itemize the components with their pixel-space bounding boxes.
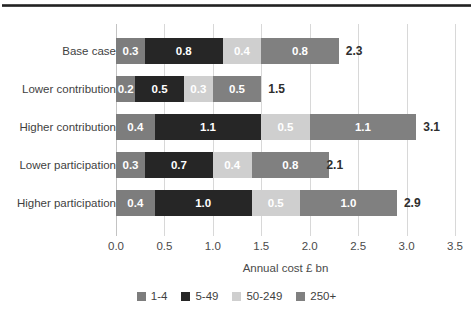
x-tick-label: 3.0 bbox=[387, 240, 427, 252]
legend-swatch-icon bbox=[137, 292, 146, 301]
x-tick-label: 1.0 bbox=[193, 240, 233, 252]
x-tick-label: 2.5 bbox=[338, 240, 378, 252]
legend-swatch-icon bbox=[181, 292, 190, 301]
bar-segment: 0.4 bbox=[223, 38, 262, 64]
bar-segment: 0.4 bbox=[116, 114, 155, 140]
bar-row: Higher participation0.41.00.51.02.9 bbox=[0, 190, 473, 216]
stacked-bar: 0.30.70.40.8 bbox=[116, 152, 329, 178]
bar-segment: 0.8 bbox=[252, 152, 329, 178]
legend-label: 5-49 bbox=[195, 290, 218, 302]
x-axis-title: Annual cost £ bn bbox=[116, 262, 455, 274]
bar-row: Lower contribution0.20.50.30.51.5 bbox=[0, 76, 473, 102]
x-tick-label: 0.0 bbox=[96, 240, 136, 252]
bar-segment: 0.3 bbox=[116, 38, 145, 64]
bar-segment: 0.4 bbox=[213, 152, 252, 178]
top-divider-rule bbox=[2, 4, 471, 7]
plot-area: Base case0.30.80.40.82.3Lower contributi… bbox=[0, 24, 473, 236]
stacked-bar: 0.20.50.30.5 bbox=[116, 76, 261, 102]
bar-segment: 0.5 bbox=[252, 190, 300, 216]
legend-swatch-icon bbox=[232, 292, 241, 301]
bar-row: Base case0.30.80.40.82.3 bbox=[0, 38, 473, 64]
bar-segment: 0.5 bbox=[261, 114, 309, 140]
legend-label: 50-249 bbox=[246, 290, 282, 302]
x-tick-label: 1.5 bbox=[241, 240, 281, 252]
bar-row: Higher contribution0.41.10.51.13.1 bbox=[0, 114, 473, 140]
stacked-bar: 0.41.00.51.0 bbox=[116, 190, 397, 216]
bar-total-label: 1.5 bbox=[268, 76, 285, 102]
bar-segment: 0.3 bbox=[116, 152, 145, 178]
bar-total-label: 2.3 bbox=[346, 38, 363, 64]
chart-legend: 1-45-4950-249250+ bbox=[0, 290, 473, 302]
category-label: Lower contribution bbox=[4, 76, 116, 102]
bar-segment: 0.2 bbox=[116, 76, 135, 102]
x-tick-label: 0.5 bbox=[144, 240, 184, 252]
bar-segment: 1.1 bbox=[155, 114, 262, 140]
bar-segment: 0.7 bbox=[145, 152, 213, 178]
x-axis-tick-labels: 0.00.51.01.52.02.53.03.5 bbox=[0, 240, 473, 256]
bar-segment: 1.0 bbox=[300, 190, 397, 216]
legend-item[interactable]: 50-249 bbox=[232, 290, 282, 302]
stacked-bar: 0.41.10.51.1 bbox=[116, 114, 416, 140]
category-label: Base case bbox=[4, 38, 116, 64]
legend-label: 1-4 bbox=[151, 290, 168, 302]
category-label: Higher participation bbox=[4, 190, 116, 216]
legend-label: 250+ bbox=[310, 290, 336, 302]
bar-segment: 1.1 bbox=[310, 114, 417, 140]
bar-segment: 0.5 bbox=[213, 76, 261, 102]
bar-total-label: 2.1 bbox=[326, 152, 343, 178]
bar-segment: 0.8 bbox=[145, 38, 222, 64]
category-label: Lower participation bbox=[4, 152, 116, 178]
bar-segment: 0.4 bbox=[116, 190, 155, 216]
legend-item[interactable]: 5-49 bbox=[181, 290, 218, 302]
category-label: Higher contribution bbox=[4, 114, 116, 140]
chart-figure: Base case0.30.80.40.82.3Lower contributi… bbox=[0, 0, 473, 321]
bar-row: Lower participation0.30.70.40.82.1 bbox=[0, 152, 473, 178]
x-tick-label: 3.5 bbox=[435, 240, 473, 252]
bar-segment: 0.3 bbox=[184, 76, 213, 102]
legend-swatch-icon bbox=[296, 292, 305, 301]
bar-segment: 1.0 bbox=[155, 190, 252, 216]
legend-item[interactable]: 1-4 bbox=[137, 290, 168, 302]
bar-segment: 0.5 bbox=[135, 76, 183, 102]
bar-total-label: 2.9 bbox=[404, 190, 421, 216]
stacked-bar: 0.30.80.40.8 bbox=[116, 38, 339, 64]
legend-item[interactable]: 250+ bbox=[296, 290, 336, 302]
bar-segment: 0.8 bbox=[261, 38, 338, 64]
bar-total-label: 3.1 bbox=[423, 114, 440, 140]
x-tick-label: 2.0 bbox=[290, 240, 330, 252]
